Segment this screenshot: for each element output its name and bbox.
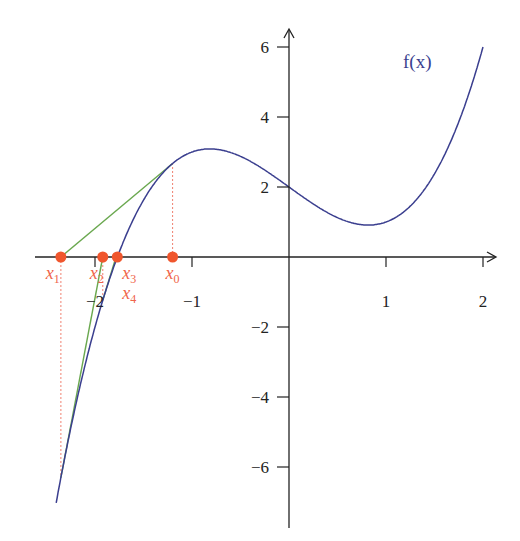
iterate-point [55, 252, 66, 263]
x-tick-label: 1 [382, 292, 391, 311]
tangent-line [61, 163, 173, 257]
function-curve [56, 47, 483, 503]
iterate-label-x4: x4 [121, 283, 136, 306]
y-tick-label: 4 [261, 108, 270, 127]
y-tick-label: 2 [261, 178, 270, 197]
iterate-point [167, 252, 178, 263]
y-tick-label: −2 [251, 318, 269, 337]
iterate-point [97, 252, 108, 263]
function-label: f(x) [403, 51, 431, 73]
newton-iterates: x0x1x2x3x4 [45, 252, 180, 307]
newton-method-plot: −2−112−6−4−2246 x0x1x2x3x4 f(x) [0, 0, 520, 541]
x-tick-label: −1 [183, 292, 201, 311]
iterate-point [112, 252, 123, 263]
iterate-label-x1: x1 [45, 263, 60, 286]
y-tick-label: −4 [251, 388, 270, 407]
y-tick-label: −6 [251, 458, 269, 477]
tangent-lines [61, 163, 173, 477]
iterate-label-x0: x0 [165, 263, 180, 286]
y-tick-label: 6 [261, 38, 270, 57]
axes: −2−112−6−4−2246 [35, 29, 496, 528]
x-tick-label: 2 [479, 292, 488, 311]
x-tick-label: −2 [86, 292, 104, 311]
